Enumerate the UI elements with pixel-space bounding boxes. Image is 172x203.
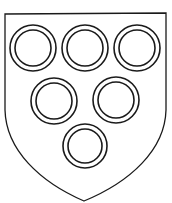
shield-graphic (0, 0, 172, 203)
shield-outline (5, 13, 166, 201)
heraldic-shield-figure (0, 0, 172, 203)
